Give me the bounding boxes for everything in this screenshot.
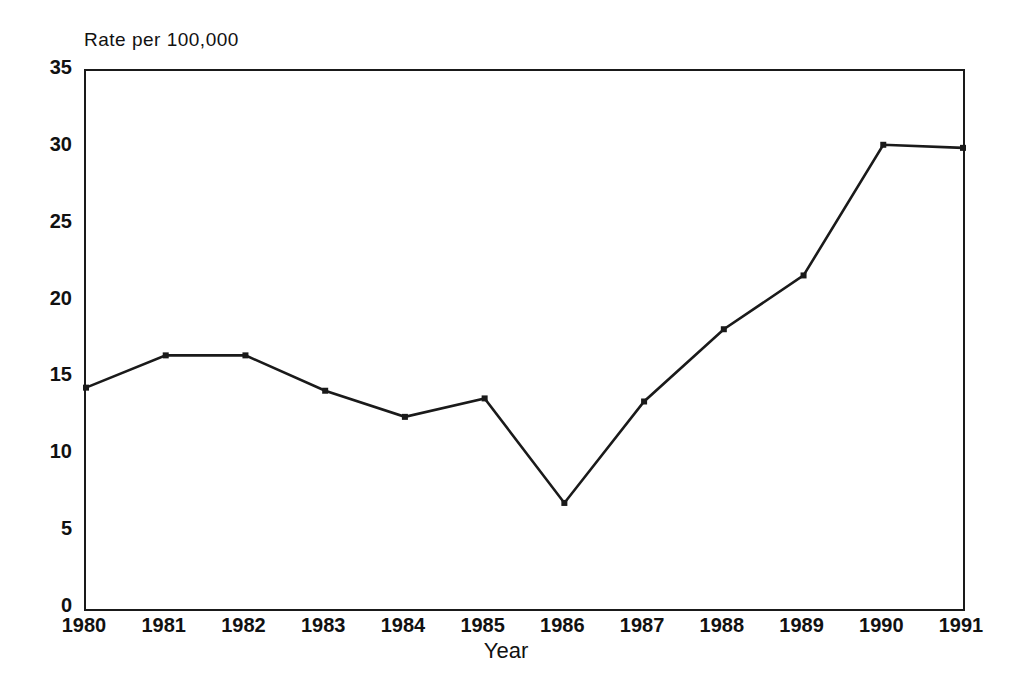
x-axis-tick-label: 1986: [540, 614, 585, 637]
x-axis-tick-label: 1984: [381, 614, 426, 637]
x-axis-tick-label: 1983: [301, 614, 346, 637]
x-axis-caption: Year: [484, 638, 528, 664]
x-axis-tick-label: 1982: [221, 614, 266, 637]
x-axis-tick-label: 1989: [779, 614, 824, 637]
x-axis-tick-label: 1987: [620, 614, 665, 637]
x-axis-tick-label: 1981: [141, 614, 186, 637]
x-axis-tick-label: 1991: [939, 614, 984, 637]
x-axis-tick-label: 1990: [859, 614, 904, 637]
x-axis-tick-label: 1980: [62, 614, 107, 637]
x-axis-tick-labels: 1980198119821983198419851986198719881989…: [0, 0, 1014, 685]
x-axis-tick-label: 1988: [700, 614, 745, 637]
chart-figure: Rate per 100,000 05101520253035 19801981…: [0, 0, 1014, 685]
x-axis-tick-label: 1985: [460, 614, 505, 637]
